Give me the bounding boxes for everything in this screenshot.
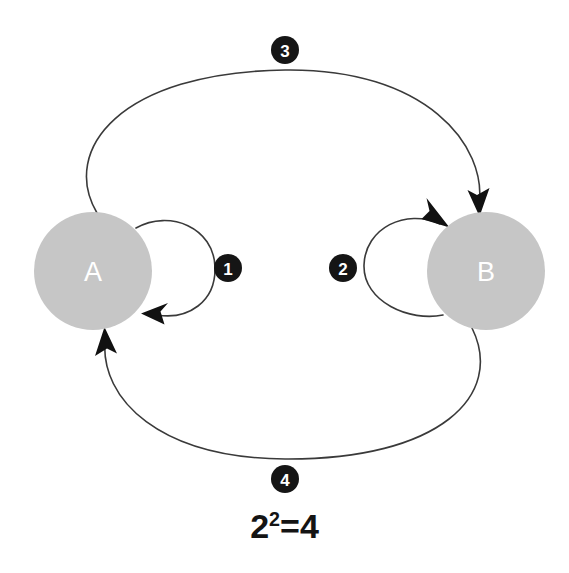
node-b-label: B	[477, 257, 495, 287]
edge-1-arrowhead-icon	[141, 303, 168, 325]
edge-badge-1-label: 1	[223, 260, 232, 279]
formula-exponent: 2	[269, 508, 280, 530]
formula-equals: =	[280, 507, 300, 545]
node-a-label: A	[84, 257, 102, 287]
node-b[interactable]: B	[427, 212, 545, 330]
edge-4-group	[95, 327, 480, 459]
edge-badge-4-label: 4	[280, 471, 290, 490]
formula-base: 2	[250, 507, 269, 545]
edge-3-group	[86, 70, 489, 217]
edge-badge-3[interactable]: 3	[271, 36, 299, 64]
edge-badge-3-label: 3	[280, 42, 289, 61]
formula-result: 4	[300, 507, 319, 545]
formula-caption: 22=4	[0, 505, 569, 547]
edge-4-path	[105, 328, 481, 459]
edge-2-arrowhead-icon	[422, 198, 450, 228]
graph-svg: A B 1 2 3 4	[0, 0, 569, 573]
edge-3-path	[86, 70, 479, 213]
node-a[interactable]: A	[34, 212, 152, 330]
edge-badge-4[interactable]: 4	[271, 465, 299, 493]
edge-badge-2[interactable]: 2	[329, 254, 357, 282]
edge-badge-2-label: 2	[338, 260, 347, 279]
edge-badge-1[interactable]: 1	[214, 254, 242, 282]
edge-4-arrowhead-icon	[95, 327, 117, 356]
diagram-canvas: A B 1 2 3 4 22=4	[0, 0, 569, 573]
